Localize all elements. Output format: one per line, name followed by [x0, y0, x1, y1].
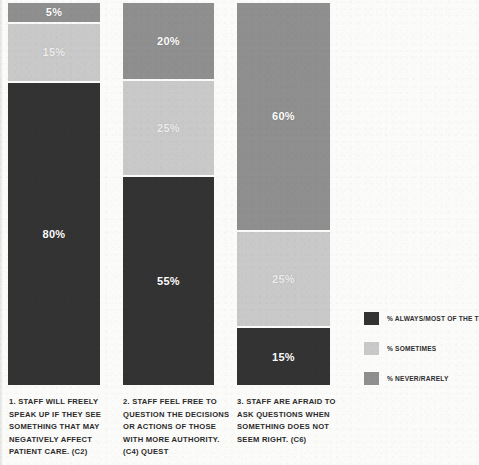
bar-segment-always-most[interactable]: 15% — [237, 328, 330, 385]
legend-item-never-rarely[interactable]: % NEVER/RARELY — [364, 363, 479, 393]
bar-segment-value-label: 20% — [157, 35, 180, 47]
legend-swatch-icon — [364, 372, 379, 385]
bar-segment-sometimes[interactable]: 25% — [123, 81, 214, 178]
legend-item-label: % SOMETIMES — [387, 345, 436, 352]
category-label-1: 1. STAFF WILL FREELY SPEAK UP IF THEY SE… — [9, 396, 117, 459]
category-label-2: 2. STAFF FEEL FREE TO QUESTION THE DECIS… — [123, 396, 233, 459]
bar-segment-value-label: 15% — [43, 46, 66, 58]
bar-segment-value-label: 25% — [157, 122, 180, 134]
bar-column-1[interactable]: 5% 15% 80% — [8, 3, 100, 385]
bar-column-3[interactable]: 60% 25% 15% — [237, 3, 330, 385]
bar-segment-sometimes[interactable]: 25% — [237, 232, 330, 329]
stacked-bar-chart-plot-area: 5% 15% 80% 20% 25% 55% 60% 25% 15% — [0, 0, 345, 390]
chart-legend: % ALWAYS/MOST OF THE TIME % SOMETIMES % … — [364, 303, 479, 393]
legend-item-always-most[interactable]: % ALWAYS/MOST OF THE TIME — [364, 303, 479, 333]
category-label-3: 3. STAFF ARE AFRAID TO ASK QUESTIONS WHE… — [237, 396, 349, 446]
bar-column-2[interactable]: 20% 25% 55% — [123, 3, 214, 385]
bar-segment-never-rarely[interactable]: 20% — [123, 3, 214, 81]
bar-segment-value-label: 25% — [272, 273, 295, 285]
bar-segment-value-label: 5% — [46, 6, 63, 18]
legend-item-label: % NEVER/RARELY — [387, 375, 449, 382]
bar-segment-never-rarely[interactable]: 5% — [8, 3, 100, 24]
bar-segment-sometimes[interactable]: 15% — [8, 24, 100, 83]
bar-segment-value-label: 60% — [272, 110, 295, 122]
bar-segment-always-most[interactable]: 80% — [8, 83, 100, 385]
bar-segment-value-label: 80% — [43, 228, 66, 240]
bar-segment-value-label: 55% — [157, 275, 180, 287]
legend-item-label: % ALWAYS/MOST OF THE TIME — [387, 315, 479, 322]
bar-segment-never-rarely[interactable]: 60% — [237, 3, 330, 232]
legend-swatch-icon — [364, 342, 379, 355]
bar-segment-value-label: 15% — [272, 351, 295, 363]
legend-swatch-icon — [364, 312, 379, 325]
bar-segment-always-most[interactable]: 55% — [123, 177, 214, 385]
legend-item-sometimes[interactable]: % SOMETIMES — [364, 333, 479, 363]
